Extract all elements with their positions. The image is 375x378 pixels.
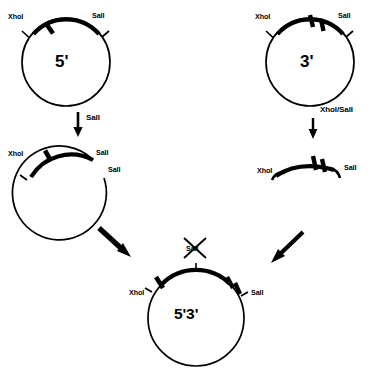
arrow-ligate-right-shaft — [278, 232, 303, 256]
plasmid-final-name: 5'3' — [174, 305, 198, 323]
linearized-5prime-sali-upper-label: SalI — [96, 148, 108, 157]
plasmid-3prime-xhoi-label: XhoI — [255, 12, 270, 21]
fragment-3prime-site-tick-1 — [313, 156, 316, 170]
fragment-3prime-graphic — [272, 156, 340, 180]
plasmid-3prime-xhoi-tick — [266, 31, 273, 38]
arrow-ligate-left-shaft — [99, 228, 123, 250]
plasmid-final-destroyed-sali-label: SalI — [186, 244, 198, 253]
plasmid-final-site-tick-right-1 — [227, 277, 233, 288]
arrow-ligate-right — [271, 232, 303, 263]
cloning-diagram: XhoI SalI 5' SalI XhoI SalI 3' XhoI/SalI… — [0, 0, 375, 378]
linearized-5prime-xhoi-label: XhoI — [8, 149, 23, 158]
plasmid-5prime-xhoi-tick — [22, 31, 29, 38]
linearized-5prime-insert-arc — [31, 155, 93, 177]
plasmid-final-site-tick-left — [156, 277, 163, 288]
fragment-3prime-xhoi-label: XhoI — [257, 166, 272, 175]
plasmid-final-graphic — [145, 238, 248, 366]
plasmid-5prime-sali-label: SalI — [92, 11, 104, 20]
plasmid-final-insert-arc — [162, 270, 230, 284]
plasmid-final-xhoi-tick — [145, 288, 152, 292]
arrow-digest-right-head — [309, 129, 318, 139]
plasmid-final-sali-tick — [241, 292, 248, 296]
plasmid-final-sali-label: SalI — [251, 288, 263, 297]
plasmid-5prime-site-tick — [46, 24, 53, 34]
plasmid-3prime-sali-label: SalI — [338, 11, 350, 20]
plasmid-5prime-insert-arc — [34, 19, 100, 34]
arrow-digest-left-head — [73, 127, 82, 137]
fragment-3prime-site-tick-2 — [322, 159, 325, 172]
arrow-digest-right — [309, 118, 318, 139]
linearized-5prime-sali-lower-label: SalI — [108, 165, 120, 174]
plasmid-5prime-name: 5' — [55, 52, 69, 72]
plasmid-3prime-sali-tick — [346, 31, 353, 37]
linearized-5prime-graphic — [12, 146, 106, 240]
arrow-digest-left-label: SalI — [86, 113, 100, 122]
linearized-5prime-xhoi-tick — [20, 175, 27, 180]
plasmid-5prime-xhoi-label: XhoI — [8, 12, 23, 21]
fragment-3prime-right-end — [330, 168, 340, 178]
plasmid-3prime-site-tick-2 — [321, 19, 324, 31]
plasmid-5prime-sali-tick — [102, 31, 109, 37]
fragment-3prime-sali-label: SalI — [344, 163, 356, 172]
plasmid-3prime-site-tick-1 — [310, 15, 313, 27]
arrow-ligate-left — [99, 228, 131, 257]
arrow-digest-right-label: XhoI/SalI — [320, 105, 353, 114]
plasmid-final-xhoi-label: XhoI — [129, 288, 144, 297]
plasmid-3prime-name: 3' — [300, 52, 314, 72]
arrow-digest-left — [73, 112, 82, 137]
